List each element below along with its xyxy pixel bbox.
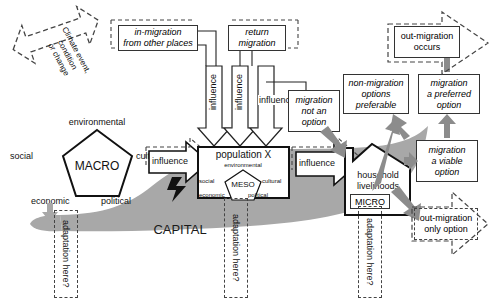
diagram-canvas: Climate event, condition or change MACRO…	[0, 0, 495, 301]
box-adaptation-here-left-label: adaptation here?	[61, 220, 71, 288]
box-out-migration-only-option[interactable]: out-migration only option	[414, 208, 478, 240]
box-adaptation-here-middle-label: adaptation here?	[231, 214, 241, 282]
box-out-migration-only-option-label: out-migration only option	[420, 213, 473, 235]
box-adaptation-here-left[interactable]: adaptation here?	[54, 210, 78, 298]
box-adaptation-here-right-label: adaptation here?	[365, 218, 375, 286]
box-adaptation-here-right[interactable]: adaptation here?	[358, 206, 382, 298]
capital-label: CAPITAL	[120, 222, 240, 237]
box-adaptation-here-middle[interactable]: adaptation here?	[224, 198, 248, 298]
